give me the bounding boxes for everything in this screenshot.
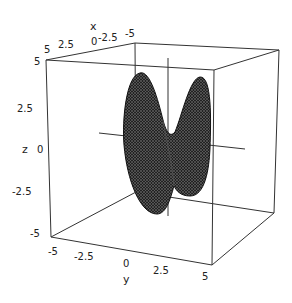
x-tick: -2.5 [98,32,118,43]
y-tick: -5 [48,246,58,257]
x-axis-label: x [90,20,97,33]
y-tick: 0 [123,258,129,269]
x-tick: 0 [91,36,97,47]
z-tick: -5 [30,228,40,239]
surface-plot: x 5 2.5 0 -2.5 -5 5 2.5 z 0 -2.5 -5 -5 -… [0,0,292,303]
x-tick: 2.5 [58,39,74,50]
z-tick: 5 [34,56,40,67]
y-tick: 5 [202,271,208,282]
x-tick: -5 [125,28,135,39]
y-axis-label: y [123,273,130,286]
z-tick: 0 [37,144,43,155]
saddle-surface [124,73,211,214]
z-axis-label: z [22,143,28,156]
y-tick: -2.5 [74,251,94,262]
z-tick: -2.5 [12,186,32,197]
z-tick: 2.5 [17,103,33,114]
x-tick: 5 [44,44,50,55]
y-tick: 2.5 [153,265,169,276]
